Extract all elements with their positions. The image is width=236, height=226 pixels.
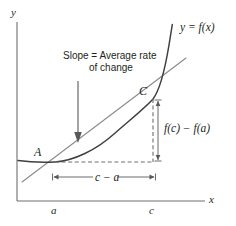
figure-container: y x y = f(x) A C f(c) − f(a [0, 0, 236, 226]
rise-label: f(c) − f(a) [164, 122, 210, 135]
x-tick-label-c: c [149, 204, 154, 216]
rise-arrowhead-down [156, 155, 161, 160]
callout-line-2: of change [89, 62, 133, 73]
y-axis-label: y [10, 6, 16, 18]
secant-line-group [22, 58, 186, 182]
function-label: y = f(x) [179, 21, 215, 34]
point-label-a: A [33, 145, 42, 159]
run-arrowhead-right [150, 175, 155, 180]
x-axis-label: x [208, 193, 214, 205]
secant-line [22, 58, 186, 182]
function-curve-group: y = f(x) [18, 21, 215, 162]
function-curve [18, 25, 172, 163]
construction-lines-group [55, 99, 153, 162]
rise-measure-group: f(c) − f(a) [155, 100, 211, 161]
point-labels-group: A C [33, 84, 148, 159]
run-arrowhead-left [54, 175, 59, 180]
x-tick-labels-group: a c [51, 204, 154, 216]
run-measure-group: c − a [53, 170, 156, 184]
rise-arrowhead-up [156, 101, 161, 106]
x-tick-label-a: a [51, 204, 57, 216]
point-label-c: C [139, 84, 148, 98]
callout-line-1: Slope = Average rate [63, 50, 157, 61]
run-label: c − a [95, 171, 120, 183]
average-rate-of-change-figure: y x y = f(x) A C f(c) − f(a [0, 0, 236, 226]
